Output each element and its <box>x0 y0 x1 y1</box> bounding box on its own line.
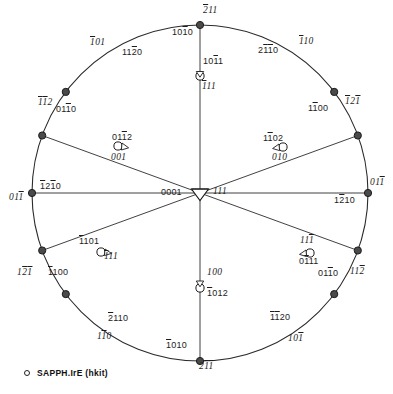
pole-label-ru-hkil: 1100 <box>308 104 328 113</box>
legend-label: SAPPH.IrE (hkit) <box>37 368 108 378</box>
interior-pole-markers <box>97 72 314 293</box>
pole-label-uli-hkil: 0112 <box>112 133 132 142</box>
pole-label-ru-cubic: 121 <box>345 97 360 106</box>
pole-label-left-cubic: 011 <box>9 193 24 202</box>
stereographic-projection-figure: 211 1010 1011 111 101 1120 2110 110 112 … <box>0 0 393 394</box>
pole-label-ur-hkil: 2110 <box>258 46 278 55</box>
pole-label-rl-cubic: 112 <box>350 267 365 276</box>
pole-label-bot-cubic: 211 <box>199 362 214 371</box>
pole-label-right-cubic: 011 <box>370 178 385 187</box>
pole-label-right-hkil: 1210 <box>334 196 355 205</box>
pole-label-lri-hkil: 0111 <box>299 257 319 266</box>
pole-label-uri-hkil: 1102 <box>263 134 283 143</box>
pole-label-lowl-cubic: 110 <box>97 332 112 341</box>
pole-label-top-hkil: 1010 <box>172 28 193 37</box>
pole-label-uri-cubic: 010 <box>272 153 287 162</box>
pole-label-center-cubic: 111 <box>213 187 227 196</box>
legend-open-circle-icon <box>24 370 30 376</box>
pole-label-left-hkil: 1210 <box>40 182 61 191</box>
pole-label-lli-hkil: 1101 <box>79 237 99 246</box>
pole-label-bi-cubic: 100 <box>207 268 222 277</box>
pole-label-center-hkil: 0001 <box>161 188 182 197</box>
pole-label-rl-hkil: 0110 <box>318 269 338 278</box>
pole-label-lowr-hkil: 1120 <box>270 313 290 322</box>
pole-label-ul-cubic: 101 <box>90 38 105 47</box>
pole-label-lli-cubic: 111 <box>104 252 118 261</box>
legend: SAPPH.IrE (hkit) <box>24 368 108 378</box>
pole-label-ll-hkil: 1100 <box>48 268 68 277</box>
pole-label-uli-cubic: 001 <box>111 153 126 162</box>
pole-label-lu-hkil: 0110 <box>56 105 76 114</box>
pole-label-bot-hkil: 1010 <box>166 341 187 350</box>
pole-label-top-inner-cubic: 111 <box>202 82 216 91</box>
pole-label-top-cubic: 211 <box>203 6 218 15</box>
pole-label-bi-hkil: 1012 <box>207 289 228 298</box>
pole-label-ur-cubic: 110 <box>299 37 314 46</box>
pole-label-top-inner-hkil: 1011 <box>203 57 223 66</box>
pole-label-lowr-cubic: 101 <box>288 334 303 343</box>
pole-label-lu-cubic: 112 <box>38 98 53 107</box>
pole-label-ll-cubic: 121 <box>17 268 32 277</box>
pole-label-lowl-hkil: 2110 <box>108 314 128 323</box>
pole-label-lri-cubic: 111 <box>300 236 314 245</box>
pole-label-ul-hkil: 1120 <box>122 48 142 57</box>
